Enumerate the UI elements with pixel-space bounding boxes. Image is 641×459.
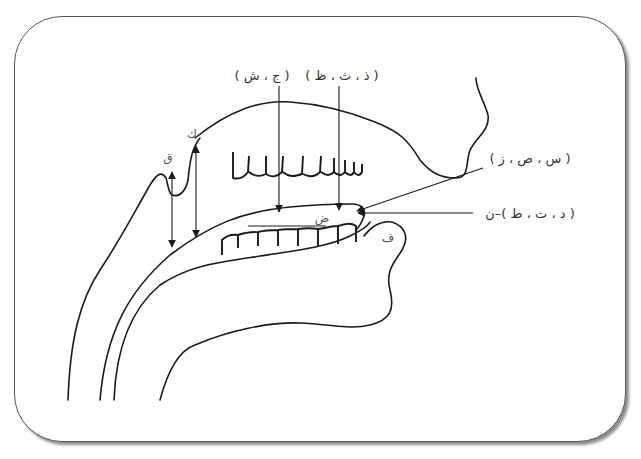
mouth-articulation-diagram: ( ج ، ش ) ( ذ ، ث ، ظ ) ( س ، ص ، ز ) ( … — [0, 0, 641, 459]
lower-jaw-outline — [160, 222, 406, 400]
pharynx-inner-line — [114, 222, 370, 400]
tongue-upper-surface — [100, 204, 365, 400]
sin-sad-zay-arrow — [357, 168, 483, 211]
upper-palate-outline — [195, 78, 488, 178]
pharynx-back-wall — [68, 138, 200, 400]
label-fa: ف — [382, 231, 394, 245]
label-dal-ta-tta-nun: ( د ، ت ، ط )–ن — [485, 206, 574, 221]
upper-teeth — [233, 152, 362, 179]
label-dad: ض — [315, 211, 330, 226]
label-sin-sad-zay: ( س ، ص ، ز ) — [489, 151, 570, 167]
label-kaf: ك — [187, 127, 197, 141]
label-dhal-tha-za: ( ذ ، ث ، ظ ) — [305, 68, 378, 83]
label-jim-shin: ( ج ، ش ) — [234, 68, 289, 84]
lower-teeth — [222, 224, 356, 255]
label-qaf: ق — [163, 151, 172, 165]
